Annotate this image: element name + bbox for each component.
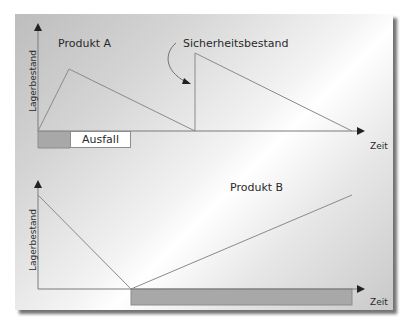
x-axis-label-top: Zeit bbox=[370, 141, 388, 151]
outage-fill bbox=[38, 131, 70, 148]
outage-bar bbox=[131, 289, 352, 305]
bottom-chart bbox=[38, 184, 361, 305]
outage-label: Ausfall bbox=[70, 131, 131, 148]
inventory-line-a bbox=[38, 53, 352, 131]
product-b-title: Produkt B bbox=[230, 181, 283, 194]
inventory-line-b bbox=[38, 195, 352, 289]
y-axis-label-bottom: Lagerbestand bbox=[28, 209, 38, 271]
y-axis-label-top: Lagerbestand bbox=[28, 50, 38, 112]
product-a-title: Produkt A bbox=[58, 37, 111, 50]
safety-stock-label: Sicherheitsbestand bbox=[183, 37, 288, 50]
x-axis-label-bottom: Zeit bbox=[370, 297, 388, 307]
